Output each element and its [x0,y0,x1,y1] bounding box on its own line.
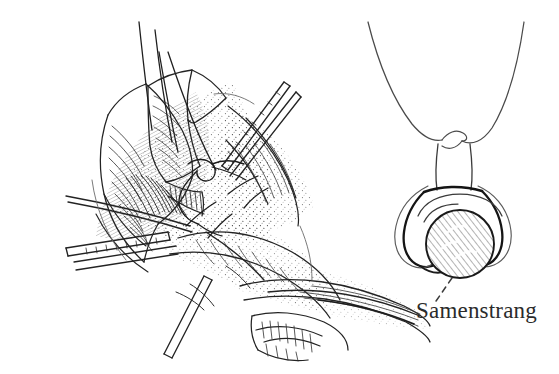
figure-root: Samenstrang [0,0,559,374]
label-samenstrang: Samenstrang [416,299,537,322]
